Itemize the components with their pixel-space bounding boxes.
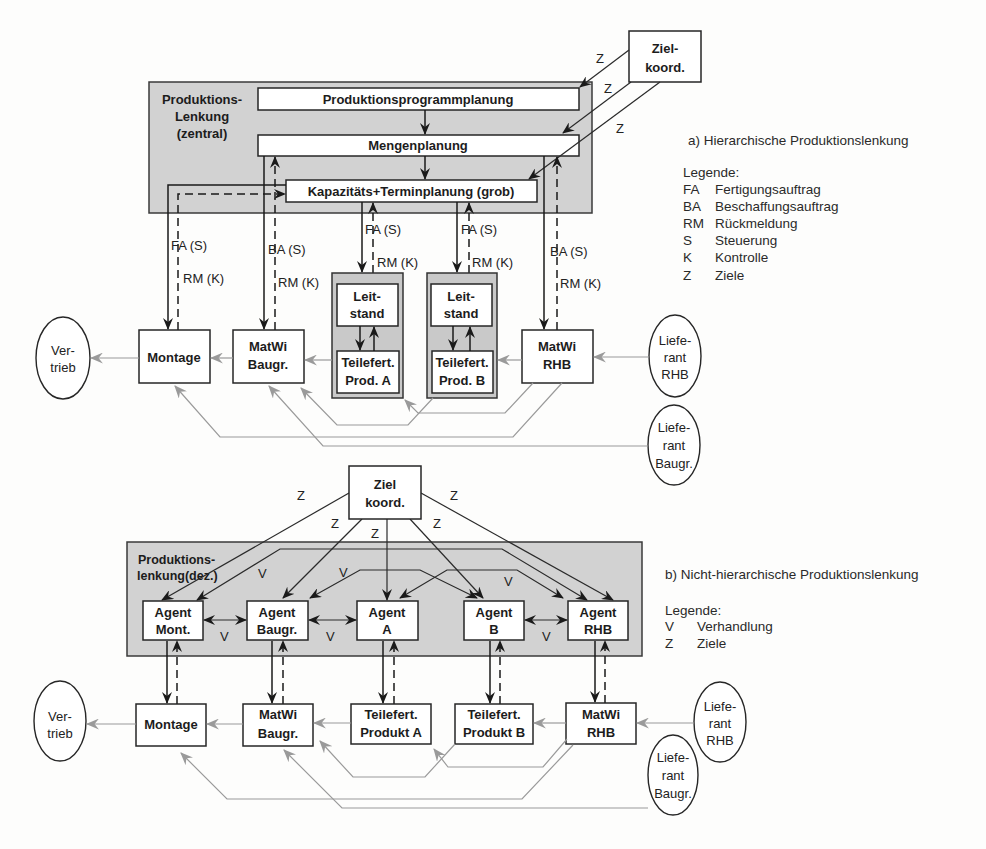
fa-label: FA (S) bbox=[365, 222, 401, 237]
legend-a-text: Ziele bbox=[715, 268, 744, 283]
central-control-label-2: Lenkung bbox=[175, 109, 229, 124]
teilefert-b-label-2: Prod. B bbox=[439, 373, 485, 388]
vertrieb-node bbox=[36, 317, 90, 399]
goal-edge-label: Z bbox=[433, 516, 441, 531]
leitstand-a-label-2: stand bbox=[350, 306, 385, 321]
goal-coordination-label-1: Ziel- bbox=[652, 41, 679, 56]
agent-b-label-1: Agent bbox=[476, 605, 514, 620]
goal-edge-label: Z bbox=[596, 51, 604, 66]
rm-label: RM (K) bbox=[560, 276, 601, 291]
agent-a-label-2: A bbox=[382, 622, 392, 637]
legend-b-abbr: V bbox=[665, 619, 674, 634]
production-control-diagram: Produktions- Lenkung (zentral) Produktio… bbox=[0, 0, 986, 849]
matwi-baugr-label-2: Baugr. bbox=[258, 726, 298, 741]
matwi-rhb-label-2: RHB bbox=[543, 357, 571, 372]
leitstand-b-label-1: Leit- bbox=[447, 289, 474, 304]
negotiation-label: V bbox=[542, 629, 551, 644]
rm-label: RM (K) bbox=[472, 255, 513, 270]
agent-montage-label-2: Mont. bbox=[156, 622, 191, 637]
vertrieb-label-2: trieb bbox=[47, 726, 72, 741]
lieferant-rhb-label-1: Liefe- bbox=[659, 333, 692, 348]
goal-coordination-label-2: koord. bbox=[645, 60, 685, 75]
legend-a-text: Rückmeldung bbox=[715, 216, 798, 231]
lieferant-rhb-label-2: rant bbox=[709, 716, 732, 731]
matwi-rhb-label-1: MatWi bbox=[582, 707, 620, 722]
decentral-control-label-2: lenkung(dez.) bbox=[137, 569, 218, 583]
rm-label: RM (K) bbox=[183, 271, 224, 286]
legend-a-abbr: BA bbox=[683, 199, 701, 214]
teilefert-b-label-1: Teilefert. bbox=[467, 707, 520, 722]
legend-b-title: Legende: bbox=[665, 603, 721, 618]
matwi-rhb-label-1: MatWi bbox=[538, 339, 576, 354]
matwi-baugr-label-1: MatWi bbox=[259, 707, 297, 722]
negotiation-label: V bbox=[326, 629, 335, 644]
lieferant-rhb-label-3: RHB bbox=[661, 367, 688, 382]
lieferant-rhb-label-1: Liefe- bbox=[704, 699, 737, 714]
material-flow-arrow bbox=[320, 741, 455, 777]
teilefert-a-label-1: Teilefert. bbox=[364, 707, 417, 722]
goal-coordination-label-2: koord. bbox=[365, 495, 405, 510]
teilefert-a-label-2: Produkt A bbox=[360, 725, 422, 740]
fa-label: FA (S) bbox=[461, 222, 497, 237]
lieferant-baugr-label-3: Baugr. bbox=[654, 786, 692, 801]
goal-edge-label: Z bbox=[616, 121, 624, 136]
agent-b-label-2: B bbox=[489, 622, 498, 637]
part-b-caption: b) Nicht-hierarchische Produktionslenkun… bbox=[665, 567, 919, 582]
agent-montage-label-1: Agent bbox=[155, 605, 193, 620]
part-a-caption: a) Hierarchische Produktionslenkung bbox=[688, 133, 909, 148]
vertrieb-label-2: trieb bbox=[50, 360, 75, 375]
montage-label: Montage bbox=[144, 717, 197, 732]
montage-label: Montage bbox=[147, 350, 200, 365]
quantity-planning-label: Mengenplanung bbox=[368, 138, 468, 153]
legend-b-text: Verhandlung bbox=[697, 619, 773, 634]
goal-edge-label: Z bbox=[297, 488, 305, 503]
central-control-label-1: Produktions- bbox=[162, 92, 242, 107]
legend-a-abbr: RM bbox=[683, 216, 704, 231]
feedback-arrow-montage bbox=[178, 194, 285, 330]
lieferant-rhb-label-2: rant bbox=[664, 350, 687, 365]
matwi-rhb-label-2: RHB bbox=[587, 725, 615, 740]
capacity-scheduling-label: Kapazitäts+Terminplanung (grob) bbox=[308, 184, 515, 199]
legend-b-abbr: Z bbox=[665, 636, 673, 651]
lieferant-baugr-label-1: Liefe- bbox=[657, 750, 690, 765]
negotiation-label: V bbox=[339, 565, 348, 580]
negotiation-label: V bbox=[220, 629, 229, 644]
legend-a-text: Kontrolle bbox=[715, 250, 768, 265]
ba-label: BA (S) bbox=[550, 244, 588, 259]
legend-a-text: Fertigungsauftrag bbox=[715, 182, 821, 197]
goal-coordination-box bbox=[349, 466, 421, 519]
lieferant-baugr-label-2: rant bbox=[663, 438, 686, 453]
legend-a-abbr: S bbox=[683, 233, 692, 248]
goal-coordination-label-1: Ziel bbox=[374, 477, 396, 492]
negotiation-label: V bbox=[504, 574, 513, 589]
goal-edge-label: Z bbox=[450, 488, 458, 503]
matwi-baugr-label-2: Baugr. bbox=[248, 357, 288, 372]
vertrieb-label-1: Ver- bbox=[51, 343, 75, 358]
rm-label: RM (K) bbox=[377, 255, 418, 270]
leitstand-a-label-1: Leit- bbox=[353, 289, 380, 304]
agent-rhb-label-1: Agent bbox=[580, 605, 618, 620]
goal-edge-label: Z bbox=[331, 516, 339, 531]
lieferant-baugr-label-3: Baugr. bbox=[655, 456, 693, 471]
goal-edge-label: Z bbox=[371, 526, 379, 541]
legend-b-text: Ziele bbox=[697, 636, 726, 651]
part-a-hierarchical: Produktions- Lenkung (zentral) Produktio… bbox=[36, 31, 909, 485]
rm-label: RM (K) bbox=[278, 275, 319, 290]
fa-label: FA (S) bbox=[171, 238, 207, 253]
teilefert-a-label-1: Teilefert. bbox=[341, 355, 394, 370]
ba-label: BA (S) bbox=[268, 242, 306, 257]
legend-a-abbr: FA bbox=[683, 182, 700, 197]
teilefert-a-label-2: Prod. A bbox=[345, 373, 391, 388]
lieferant-baugr-label-1: Liefe- bbox=[658, 420, 691, 435]
lieferant-baugr-label-2: rant bbox=[662, 768, 685, 783]
central-control-label-3: (zentral) bbox=[177, 126, 228, 141]
teilefert-b-label-2: Produkt B bbox=[463, 725, 525, 740]
negotiation-label: V bbox=[258, 566, 267, 581]
material-flow-arrow bbox=[181, 745, 573, 799]
lieferant-rhb-label-3: RHB bbox=[706, 733, 733, 748]
legend-a-title: Legende: bbox=[683, 165, 739, 180]
legend-a-text: Steuerung bbox=[715, 233, 777, 248]
leitstand-b-label-2: stand bbox=[444, 306, 479, 321]
legend-a-text: Beschaffungsauftrag bbox=[715, 199, 839, 214]
matwi-baugr-label-1: MatWi bbox=[249, 339, 287, 354]
